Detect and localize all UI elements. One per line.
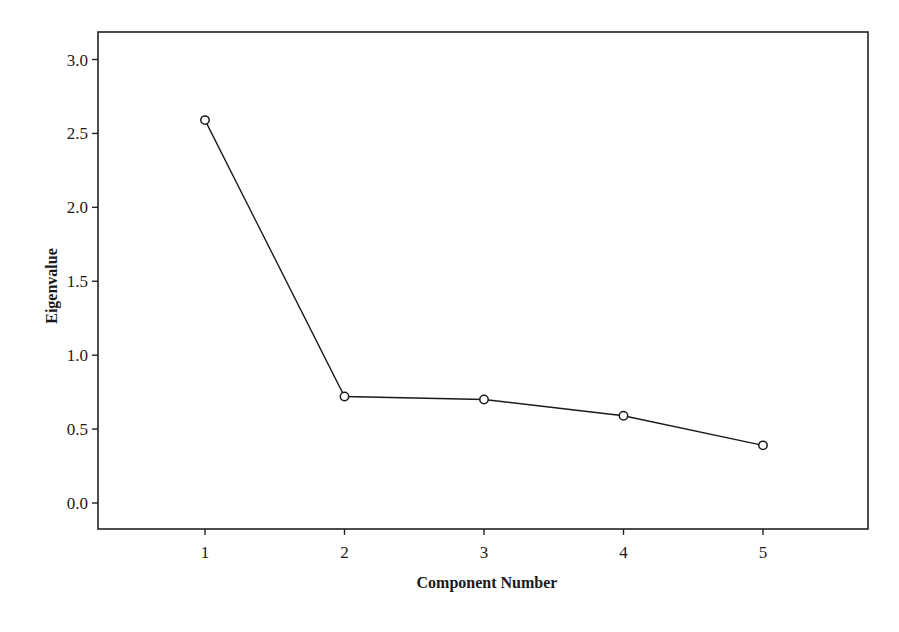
y-axis-ticks: 0.00.51.01.52.02.53.0: [67, 51, 98, 514]
data-point-marker: [201, 116, 209, 124]
x-tick-label: 3: [480, 543, 489, 562]
y-tick-label: 2.5: [67, 124, 88, 143]
data-point-marker: [340, 392, 348, 400]
x-tick-label: 4: [619, 543, 628, 562]
y-axis-title: Eigenvalue: [43, 248, 61, 324]
y-tick-label: 1.0: [67, 346, 88, 365]
data-point-marker: [480, 395, 488, 403]
plot-border: [98, 32, 868, 529]
y-tick-label: 0.5: [67, 420, 88, 439]
scree-plot: 0.00.51.01.52.02.53.0 12345 Component Nu…: [0, 0, 899, 632]
data-series: [201, 116, 767, 450]
y-tick-label: 1.5: [67, 272, 88, 291]
data-point-marker: [619, 412, 627, 420]
y-tick-label: 0.0: [67, 494, 88, 513]
x-tick-label: 5: [759, 543, 768, 562]
x-axis-ticks: 12345: [201, 529, 768, 562]
x-axis-title: Component Number: [417, 574, 558, 592]
x-tick-label: 1: [201, 543, 210, 562]
chart-canvas: 0.00.51.01.52.02.53.0 12345 Component Nu…: [0, 0, 899, 632]
data-point-marker: [759, 441, 767, 449]
y-tick-label: 2.0: [67, 198, 88, 217]
x-tick-label: 2: [340, 543, 349, 562]
y-tick-label: 3.0: [67, 51, 88, 70]
plot-frame: [98, 32, 868, 529]
